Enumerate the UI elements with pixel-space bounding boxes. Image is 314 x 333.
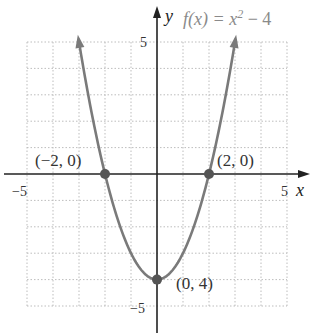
point-label: (2, 0): [217, 151, 254, 170]
labels: (−2, 0)(2, 0)(0, 4)−555−5xyf(x) = x2 − 4: [12, 6, 304, 316]
function-title: f(x) = x2 − 4: [183, 7, 271, 30]
x-tick-label: 5: [281, 184, 288, 199]
point-label: (0, 4): [176, 274, 213, 293]
y-tick-label: −5: [130, 301, 145, 316]
data-point: [100, 169, 110, 179]
data-point: [152, 275, 162, 285]
point-label: (−2, 0): [35, 151, 81, 170]
y-axis-label: y: [163, 6, 173, 26]
y-axis-arrow-icon: [153, 6, 161, 18]
x-axis-label: x: [295, 180, 304, 200]
parabola-chart: (−2, 0)(2, 0)(0, 4)−555−5xyf(x) = x2 − 4: [0, 0, 314, 333]
x-tick-label: −5: [12, 184, 27, 199]
data-point: [204, 169, 214, 179]
x-axis-arrow-icon: [298, 170, 310, 178]
y-tick-label: 5: [140, 35, 147, 50]
